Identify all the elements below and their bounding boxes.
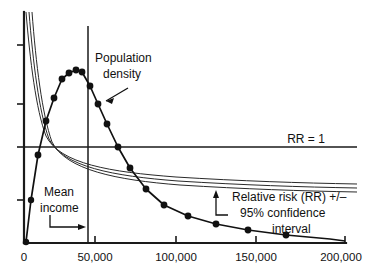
population-density-point [185, 213, 192, 220]
relative-risk-estimate-curve [29, 12, 357, 188]
population-density-label-line2: density [103, 67, 141, 81]
relative-risk-label-line2: 95% confidence [240, 206, 326, 220]
x-tick-label-50000: 50,000 [77, 251, 112, 263]
population-density-point [161, 202, 168, 209]
population-density-point [51, 95, 58, 102]
x-tick-label-150000: 150,000 [235, 251, 277, 263]
rr-equals-one-label: RR = 1 [287, 132, 325, 146]
mean-income-label-line2: income [40, 201, 79, 215]
population-density-point [43, 118, 50, 125]
population-density-point [23, 239, 29, 245]
population-density-point [115, 144, 122, 151]
mean-income-label-line1: Mean [44, 185, 74, 199]
population-density-leader-line [106, 88, 128, 101]
relative-risk-label-line1: Relative risk (RR) +/– [232, 190, 347, 204]
relative-risk-arrowhead [213, 190, 219, 198]
x-tick-label-200000: 200,000 [320, 251, 362, 263]
population-density-point [28, 197, 34, 203]
mean-income-leader-line [50, 215, 80, 227]
population-density-point [95, 101, 102, 108]
relative-risk-upper-ci-curve [26, 12, 357, 184]
relative-risk-label-line3: interval [272, 222, 311, 236]
relative-risk-population-density-chart: 0 50,000 100,000 150,000 200,000 Populat… [0, 0, 372, 271]
population-density-point [127, 165, 134, 172]
population-density-label-line1: Population [95, 51, 152, 65]
x-tick-label-100000: 100,000 [155, 251, 197, 263]
population-density-point [104, 121, 111, 128]
population-density-point [143, 186, 150, 193]
population-density-point [79, 69, 86, 76]
x-tick-label-0: 0 [21, 251, 27, 263]
population-density-point [73, 67, 80, 74]
population-density-point [213, 221, 220, 228]
mean-income-arrowhead [78, 224, 86, 230]
population-density-point [245, 227, 252, 234]
population-density-point [66, 70, 73, 77]
chart-figure: 0 50,000 100,000 150,000 200,000 Populat… [0, 0, 372, 271]
relative-risk-leader-line [216, 196, 228, 215]
relative-risk-lower-ci-curve [32, 12, 357, 192]
population-density-point [59, 76, 66, 83]
population-density-point [35, 152, 42, 159]
population-density-point [87, 83, 94, 90]
